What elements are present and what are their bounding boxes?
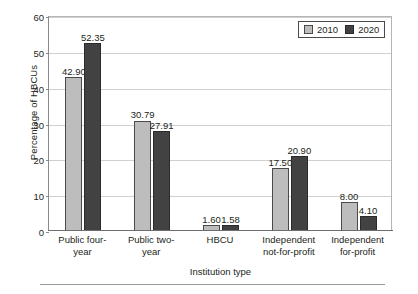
legend-swatch-2010-icon [304, 25, 313, 34]
x-axis-tick-label-line: for-profit [323, 246, 392, 258]
x-axis-tick-label: Public four-year [48, 234, 117, 257]
bar-value-label: 42.90 [62, 67, 86, 77]
y-axis-title: Percentage of HBCUs [28, 18, 39, 208]
y-axis-tick-label: 20 [33, 155, 44, 166]
bar-value-label: 1.60 [202, 215, 221, 225]
bar-value-label: 8.00 [340, 192, 359, 202]
bar-2020-public-two-year[interactable]: 27.91 [153, 131, 170, 231]
bar-group-bars: 8.004.10 [324, 17, 393, 231]
bar-2020-public-four-year[interactable]: 52.35 [84, 43, 101, 231]
x-axis-tick-label-line: year [117, 246, 186, 258]
x-axis-tick-label-line: HBCU [186, 234, 255, 246]
bar-value-label: 27.91 [150, 121, 174, 131]
bar-value-label: 4.10 [359, 206, 378, 216]
x-axis-tick-label-line: not-for-profit [254, 246, 323, 258]
bar-group: 42.9052.35 [49, 17, 118, 231]
y-axis-tick-label: 40 [33, 83, 44, 94]
bar-value-label: 30.79 [131, 110, 155, 120]
x-axis-tick-label-line: Public two- [117, 234, 186, 246]
legend-label-2010: 2010 [317, 24, 338, 35]
bar-value-label: 17.50 [268, 158, 292, 168]
bar-group-bars: 1.601.58 [187, 17, 256, 231]
legend-item-2010: 2010 [304, 24, 338, 35]
y-axis-tick-label: 50 [33, 47, 44, 58]
legend-item-2020: 2020 [345, 24, 379, 35]
bar-value-label: 20.90 [287, 146, 311, 156]
y-axis-tick-label: 0 [39, 227, 44, 238]
bar-chart-figure: Percentage of HBCUs 010203040506042.9052… [0, 0, 418, 294]
x-axis-title: Institution type [48, 266, 393, 277]
bar-group-bars: 30.7927.91 [118, 17, 187, 231]
bar-group-bars: 17.5020.90 [255, 17, 324, 231]
x-axis-tick-label-line: year [48, 246, 117, 258]
legend-swatch-2020-icon [345, 25, 354, 34]
y-axis-tick-label: 30 [33, 119, 44, 130]
legend-label-2020: 2020 [358, 24, 379, 35]
plot-area: 010203040506042.9052.3530.7927.911.601.5… [48, 16, 392, 231]
x-axis-tick-label: Public two-year [117, 234, 186, 257]
bar-2020-independent-for-profit[interactable]: 4.10 [360, 216, 377, 231]
bar-group: 17.5020.90 [255, 17, 324, 231]
x-axis-tick-label: Independentfor-profit [323, 234, 392, 257]
x-axis-tick-label-line: Public four- [48, 234, 117, 246]
bar-group-bars: 42.9052.35 [49, 17, 118, 231]
bar-2010-public-four-year[interactable]: 42.90 [65, 77, 82, 231]
bar-value-label: 52.35 [81, 33, 105, 43]
x-axis-tick-label-line: Independent [323, 234, 392, 246]
chart-legend: 2010 2020 [298, 21, 385, 38]
x-axis-tick-label: HBCU [186, 234, 255, 246]
x-axis-tick-label-line: Independent [254, 234, 323, 246]
footer-divider [40, 284, 385, 285]
bar-value-label: 1.58 [221, 215, 240, 225]
y-axis-tick-mark [46, 232, 49, 233]
bar-2010-public-two-year[interactable]: 30.79 [134, 121, 151, 231]
x-axis-tick-label: Independentnot-for-profit [254, 234, 323, 257]
y-axis-tick-label: 60 [33, 12, 44, 23]
bar-2010-independent-for-profit[interactable]: 8.00 [341, 202, 358, 231]
bar-2020-independent-not-for-profit[interactable]: 20.90 [291, 156, 308, 231]
bar-2010-independent-not-for-profit[interactable]: 17.50 [272, 168, 289, 231]
bar-group: 8.004.10 [324, 17, 393, 231]
bar-group: 1.601.58 [187, 17, 256, 231]
bar-group: 30.7927.91 [118, 17, 187, 231]
y-axis-tick-label: 10 [33, 191, 44, 202]
x-axis-baseline [48, 230, 393, 231]
